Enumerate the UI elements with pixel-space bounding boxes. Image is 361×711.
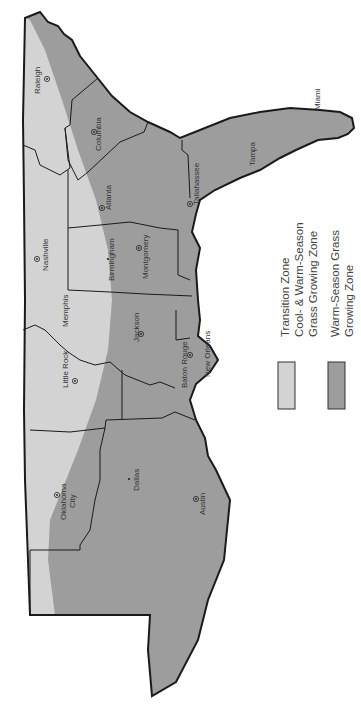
city-columbia: Columbia xyxy=(91,117,103,151)
city-label-raleigh: Raleigh xyxy=(33,67,42,94)
land-area xyxy=(0,0,354,696)
legend-warm-line1: Warm-Season Grass xyxy=(329,230,341,337)
city-label-oklahoma: Oklahoma xyxy=(59,483,68,520)
city-label-city: City xyxy=(68,494,77,508)
city-label-nashville: Nashville xyxy=(41,238,50,271)
city-label-austin: Austin xyxy=(198,493,207,515)
legend-swatch-warm-season xyxy=(328,362,345,409)
city-tampa: Tampa xyxy=(248,141,257,166)
legend-item-transition: Transition Zone Cool- & Warm-Season Gras… xyxy=(278,222,319,409)
legend-warm-line2: Growing Zone xyxy=(343,265,355,337)
city-label-montgomery: Montgomery xyxy=(141,235,150,279)
city-label-little-rock: Little Rock xyxy=(61,350,70,388)
legend-item-warm-season: Warm-Season Grass Growing Zone xyxy=(328,230,355,409)
city-label-birmingham: Birmingham xyxy=(107,238,116,281)
city-label-dallas: Dallas xyxy=(132,469,141,491)
city-label-columbia: Columbia xyxy=(94,117,103,151)
city-birmingham: Birmingham xyxy=(107,238,116,281)
city-memphis: Memphis xyxy=(61,295,70,327)
city-label-jackson: Jackson xyxy=(132,313,141,342)
city-label-memphis: Memphis xyxy=(61,295,70,327)
legend-transition-line3: Grass Growing Zone xyxy=(307,231,319,337)
city-label-tampa: Tampa xyxy=(248,141,257,166)
legend-transition-line2: Cool- & Warm-Season xyxy=(293,222,305,337)
city-label-tallahassee: Tallahassee xyxy=(192,162,201,205)
city-label-baton-rouge: Baton Rouge xyxy=(180,341,189,388)
legend-transition-line1: Transition Zone xyxy=(279,258,291,337)
legend-swatch-transition xyxy=(278,362,295,409)
city-label-atlanta: Atlanta xyxy=(104,185,113,210)
city-label-miami: Miami xyxy=(313,88,322,110)
city-label-new-orleans: New Orleans xyxy=(203,331,212,377)
grass-zone-map: Raleigh Columbia Atlanta Tallahassee Tam… xyxy=(0,0,361,711)
city-miami: Miami xyxy=(313,88,322,110)
legend: Transition Zone Cool- & Warm-Season Gras… xyxy=(278,222,355,409)
city-new-orleans: New Orleans xyxy=(203,331,212,377)
